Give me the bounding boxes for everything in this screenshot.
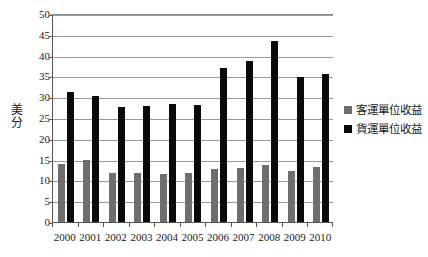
- bar-2007-series-0[interactable]: [237, 168, 244, 222]
- x-tickmark-2005: [180, 222, 181, 227]
- x-tick-label-2009: 2009: [284, 231, 306, 244]
- x-tickmark-2010: [307, 222, 308, 227]
- bar-2009-series-0[interactable]: [288, 171, 295, 222]
- bar-2008-series-0[interactable]: [262, 165, 269, 222]
- bar-2003-series-1[interactable]: [143, 106, 150, 222]
- y-tick-label-25: 25: [39, 113, 50, 124]
- plot-area: [52, 14, 333, 222]
- bar-2003-series-0[interactable]: [134, 173, 141, 223]
- bar-group-2006: [206, 15, 232, 222]
- x-tickmark-2001: [78, 222, 79, 227]
- bar-chart: 美 分 05101520253035404550 200020012002200…: [0, 0, 428, 257]
- bars-layer: [53, 15, 333, 222]
- x-tick-label-2005: 2005: [182, 231, 204, 244]
- y-tick-label-0: 0: [45, 217, 51, 228]
- legend-item-series-0[interactable]: 客運單位收益: [344, 104, 422, 116]
- bar-2002-series-0[interactable]: [109, 173, 116, 222]
- legend-swatch-icon-series-0: [344, 106, 352, 114]
- x-axis-tick-labels: 2000200120022003200420052006200720082009…: [52, 231, 333, 249]
- x-tick-label-2008: 2008: [258, 231, 280, 244]
- y-axis-title-char-1: 分: [6, 117, 28, 130]
- x-tickmark-2004: [154, 222, 155, 227]
- bar-2009-series-1[interactable]: [297, 77, 304, 222]
- legend-label-series-1: 貨運單位收益: [356, 123, 422, 135]
- chart-legend: 客運單位收益 貨運單位收益: [344, 104, 422, 135]
- x-tick-label-2003: 2003: [130, 231, 152, 244]
- x-tickmark-2002: [103, 222, 104, 227]
- bar-2004-series-0[interactable]: [160, 174, 167, 222]
- x-tickmark-2003: [129, 222, 130, 227]
- bar-2010-series-0[interactable]: [313, 167, 320, 222]
- y-tick-label-50: 50: [39, 9, 50, 20]
- x-tick-label-2010: 2010: [309, 231, 331, 244]
- x-axis-tickmarks: [52, 222, 333, 228]
- bar-2010-series-1[interactable]: [322, 74, 329, 222]
- bar-2002-series-1[interactable]: [118, 107, 125, 222]
- y-axis-tick-labels: 05101520253035404550: [26, 0, 50, 257]
- bar-2000-series-1[interactable]: [67, 92, 74, 222]
- bar-group-2010: [308, 15, 334, 222]
- bar-2008-series-1[interactable]: [271, 41, 278, 222]
- bar-group-2000: [53, 15, 79, 222]
- y-tick-label-40: 40: [39, 50, 50, 61]
- x-tick-label-2004: 2004: [156, 231, 178, 244]
- bar-2007-series-1[interactable]: [246, 61, 253, 222]
- y-axis-title: 美 分: [6, 104, 28, 130]
- x-tick-label-2002: 2002: [105, 231, 127, 244]
- legend-item-series-1[interactable]: 貨運單位收益: [344, 123, 422, 135]
- bar-group-2005: [181, 15, 207, 222]
- legend-swatch-icon-series-1: [344, 125, 352, 133]
- x-tickmark-2000: [52, 222, 53, 227]
- y-tick-label-20: 20: [39, 133, 50, 144]
- bar-2006-series-1[interactable]: [220, 68, 227, 222]
- bar-group-2008: [257, 15, 283, 222]
- bar-group-2002: [104, 15, 130, 222]
- bar-group-2009: [283, 15, 309, 222]
- x-tickmark-end: [332, 222, 333, 227]
- x-tick-label-2001: 2001: [79, 231, 101, 244]
- bar-group-2001: [79, 15, 105, 222]
- bar-group-2003: [130, 15, 156, 222]
- y-tick-label-5: 5: [45, 196, 51, 207]
- bar-group-2007: [232, 15, 258, 222]
- x-tick-label-2000: 2000: [54, 231, 76, 244]
- legend-label-series-0: 客運單位收益: [356, 104, 422, 116]
- x-tickmark-2009: [282, 222, 283, 227]
- bar-2005-series-1[interactable]: [194, 105, 201, 222]
- bar-2001-series-0[interactable]: [83, 160, 90, 222]
- y-tick-label-35: 35: [39, 71, 50, 82]
- bar-2004-series-1[interactable]: [169, 104, 176, 222]
- bar-2005-series-0[interactable]: [185, 173, 192, 223]
- y-tick-label-30: 30: [39, 92, 50, 103]
- x-tickmark-2007: [231, 222, 232, 227]
- y-tick-label-15: 15: [39, 154, 50, 165]
- bar-2001-series-1[interactable]: [92, 96, 99, 222]
- bar-2006-series-0[interactable]: [211, 169, 218, 222]
- bar-2000-series-0[interactable]: [58, 164, 65, 222]
- x-tickmark-2008: [256, 222, 257, 227]
- x-tick-label-2006: 2006: [207, 231, 229, 244]
- y-tick-label-10: 10: [39, 175, 50, 186]
- y-tick-label-45: 45: [39, 29, 50, 40]
- bar-group-2004: [155, 15, 181, 222]
- x-tick-label-2007: 2007: [233, 231, 255, 244]
- x-tickmark-2006: [205, 222, 206, 227]
